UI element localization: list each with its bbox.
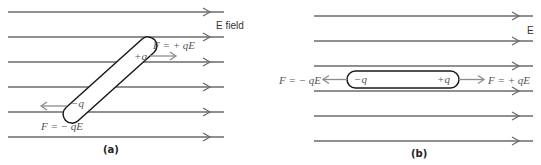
field-label-b: E [527,25,534,36]
force-arrow-positive-b [459,76,484,84]
dipole-b: −q +q [347,71,459,88]
positive-charge-b: +q [437,73,450,85]
panel-a: E field +q −q F = + qE F = − qE (a) [8,8,244,155]
caption-a: (a) [103,144,119,155]
force-negative-label-a: F = − qE [40,120,83,132]
positive-charge-a: +q [134,50,147,62]
dipole-diagram: E field +q −q F = + qE F = − qE (a) [0,0,541,165]
force-positive-label-b: F = + qE [487,74,530,86]
force-arrow-negative-a [41,102,67,110]
panel-b: E −q +q F = − qE F = + qE (b) [278,12,534,159]
force-positive-label-a: F = + qE [152,39,195,51]
field-label-a: E field [216,20,244,31]
force-arrow-negative-b [323,76,347,84]
force-negative-label-b: F = − qE [278,74,321,86]
negative-charge-a: −q [71,97,84,109]
caption-b: (b) [411,148,427,159]
negative-charge-b: −q [354,73,367,85]
